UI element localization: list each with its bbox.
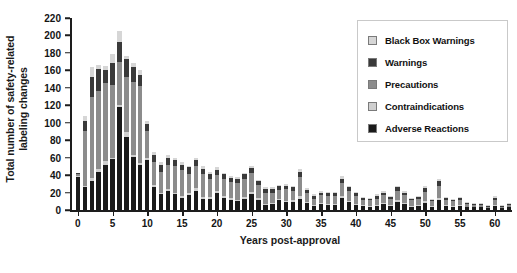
bar-stack: [249, 166, 253, 210]
bar-segment-precautions: [131, 82, 135, 155]
bar-segment-adverse-reactions: [340, 198, 344, 210]
bar-stack: [507, 203, 511, 210]
bar-segment-black-box-warnings: [90, 67, 94, 77]
bar-stack: [235, 177, 239, 210]
bar-stack: [180, 162, 184, 210]
chart-figure: Total number of safety-related labeling …: [0, 0, 517, 273]
x-tick-mark: [460, 211, 462, 216]
bar-segment-adverse-reactions: [361, 206, 365, 210]
bar-stack: [117, 31, 121, 210]
bar-stack: [437, 179, 441, 210]
legend-label-contraindications: Contraindications: [385, 101, 464, 112]
bar-segment-precautions: [152, 162, 156, 185]
bar-stack: [256, 180, 260, 211]
bar-stack: [229, 176, 233, 210]
bar-stack: [395, 186, 399, 210]
x-tick-mark: [147, 211, 149, 216]
bar-segment-adverse-reactions: [249, 194, 253, 210]
y-tick-label: 220: [44, 13, 61, 24]
bar-stack: [96, 65, 100, 210]
bar-segment-precautions: [277, 190, 281, 199]
bar-segment-adverse-reactions: [458, 206, 462, 210]
bar-segment-adverse-reactions: [388, 206, 392, 210]
bar-segment-precautions: [90, 97, 94, 178]
bar-stack: [493, 196, 497, 210]
bar-segment-precautions: [340, 183, 344, 196]
bar-segment-precautions: [291, 191, 295, 201]
bar-segment-precautions: [222, 179, 226, 196]
bar-segment-adverse-reactions: [159, 194, 163, 210]
x-tick-label: 0: [75, 218, 81, 229]
y-tick-label: 200: [44, 30, 61, 41]
bar-stack: [465, 202, 469, 210]
bar-segment-precautions: [347, 191, 351, 201]
bar-segment-adverse-reactions: [76, 177, 80, 210]
bar-segment-adverse-reactions: [319, 204, 323, 210]
bar-stack: [368, 198, 372, 210]
bar-stack: [138, 70, 142, 210]
y-tick-label: 80: [50, 135, 61, 146]
bar-segment-adverse-reactions: [375, 206, 379, 210]
bar-segment-adverse-reactions: [402, 204, 406, 210]
x-tick-mark: [356, 211, 358, 216]
bar-stack: [472, 203, 476, 210]
bar-segment-precautions: [284, 189, 288, 201]
bar-stack: [312, 194, 316, 210]
bar-segment-warnings: [166, 158, 170, 165]
bar-segment-adverse-reactions: [222, 198, 226, 210]
bar-segment-precautions: [117, 62, 121, 106]
bar-stack: [124, 56, 128, 210]
bar-stack: [347, 186, 351, 210]
x-tick-label: 25: [246, 218, 257, 229]
bar-segment-precautions: [194, 166, 198, 188]
bar-stack: [103, 66, 107, 210]
bar-stack: [76, 173, 80, 210]
x-tick-mark: [321, 211, 323, 216]
bar-segment-adverse-reactions: [194, 191, 198, 210]
bar-stack: [90, 67, 94, 210]
bar-segment-warnings: [110, 63, 114, 85]
bar-segment-precautions: [326, 196, 330, 204]
bar-segment-adverse-reactions: [103, 165, 107, 210]
bar-segment-precautions: [242, 179, 246, 197]
bar-segment-adverse-reactions: [368, 207, 372, 210]
bar-segment-adverse-reactions: [124, 137, 128, 210]
y-tick-label: 120: [44, 100, 61, 111]
bar-stack: [187, 166, 191, 210]
bar-segment-adverse-reactions: [242, 199, 246, 210]
x-tick-label: 60: [489, 218, 500, 229]
x-tick-mark: [495, 211, 497, 216]
bar-segment-adverse-reactions: [180, 198, 184, 210]
bar-stack: [284, 184, 288, 210]
bar-segment-black-box-warnings: [117, 31, 121, 42]
bar-segment-adverse-reactions: [472, 207, 476, 210]
bar-segment-adverse-reactions: [305, 203, 309, 210]
bar-segment-adverse-reactions: [270, 204, 274, 210]
bar-segment-adverse-reactions: [277, 200, 281, 210]
legend-label-black-box-warnings: Black Box Warnings: [385, 35, 475, 46]
bar-segment-precautions: [305, 193, 309, 202]
y-tick-label: 60: [50, 152, 61, 163]
bar-segment-warnings: [152, 155, 156, 162]
legend-label-precautions: Precautions: [385, 79, 438, 90]
bar-segment-adverse-reactions: [166, 191, 170, 210]
bar-stack: [381, 191, 385, 210]
bar-stack: [500, 205, 504, 210]
bar-segment-adverse-reactions: [486, 208, 490, 210]
x-tick-label: 35: [315, 218, 326, 229]
bar-segment-warnings: [138, 75, 142, 86]
bar-segment-precautions: [354, 196, 358, 204]
x-tick-label: 30: [281, 218, 292, 229]
x-tick-label: 50: [420, 218, 431, 229]
x-tick-mark: [182, 211, 184, 216]
bar-segment-adverse-reactions: [354, 205, 358, 210]
bar-segment-adverse-reactions: [347, 202, 351, 210]
bar-stack: [215, 167, 219, 210]
bar-segment-adverse-reactions: [437, 200, 441, 210]
x-axis-line: [70, 210, 512, 212]
legend-item-warnings: Warnings: [368, 51, 507, 73]
y-tick-label: 20: [50, 187, 61, 198]
bar-segment-adverse-reactions: [263, 205, 267, 210]
bar-segment-adverse-reactions: [208, 199, 212, 210]
bar-segment-adverse-reactions: [284, 202, 288, 210]
